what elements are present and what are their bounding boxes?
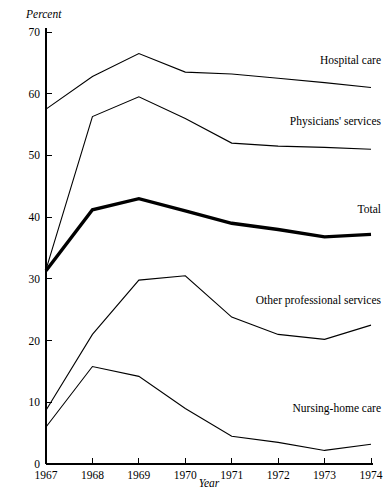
axes (46, 28, 373, 464)
y-tick-label-50: 50 (29, 149, 41, 161)
x-axis-ticks (92, 458, 371, 464)
y-axis-ticks (46, 32, 52, 464)
x-tick-label-1972: 1972 (267, 469, 290, 481)
y-tick-labels: 010203040506070 (29, 26, 41, 470)
x-tick-label-1970: 1970 (174, 469, 197, 481)
chart-canvas: 010203040506070 196719681969197019711972… (0, 0, 386, 495)
series-label-2: Total (358, 203, 381, 215)
y-tick-label-60: 60 (29, 88, 41, 100)
x-tick-label-1973: 1973 (313, 469, 336, 481)
x-tick-label-1968: 1968 (81, 469, 104, 481)
y-tick-label-30: 30 (29, 273, 41, 285)
series-line-2 (46, 199, 371, 271)
series-lines (46, 54, 371, 451)
line-chart: 010203040506070 196719681969197019711972… (0, 0, 386, 495)
x-tick-label-1969: 1969 (127, 469, 150, 481)
y-tick-label-20: 20 (29, 335, 41, 347)
x-tick-label-1967: 1967 (35, 469, 58, 481)
x-axis-title: Year (199, 477, 220, 489)
series-label-4: Nursing-home care (293, 402, 381, 415)
x-tick-label-1974: 1974 (360, 469, 383, 481)
y-tick-label-70: 70 (29, 26, 41, 38)
series-label-1: Physicians' services (290, 115, 382, 128)
x-tick-label-1971: 1971 (220, 469, 243, 481)
series-label-3: Other professional services (256, 294, 382, 307)
y-axis-title: Percent (25, 8, 62, 20)
series-label-0: Hospital care (320, 54, 381, 67)
y-tick-label-40: 40 (29, 211, 41, 223)
y-tick-label-10: 10 (29, 396, 41, 408)
